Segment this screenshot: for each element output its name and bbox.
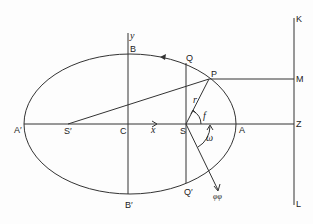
label-phi: φφ bbox=[213, 192, 222, 201]
label-B: B bbox=[130, 44, 136, 54]
angle-f-arrow-icon bbox=[191, 110, 196, 114]
label-f: f bbox=[203, 110, 207, 121]
ellipse-diagram: A′ A B B′ C S S′ P Q Q′ K L M Z x y r f … bbox=[0, 0, 313, 224]
perihelion-direction bbox=[186, 124, 218, 190]
label-r: r bbox=[193, 94, 197, 105]
label-L: L bbox=[296, 199, 301, 209]
label-omega: ω bbox=[206, 132, 213, 143]
label-Q: Q bbox=[186, 53, 193, 63]
label-C: C bbox=[120, 126, 127, 136]
label-S-prime: S′ bbox=[64, 126, 72, 136]
label-M: M bbox=[296, 74, 304, 84]
label-Q-prime: Q′ bbox=[184, 187, 193, 197]
label-A: A bbox=[239, 125, 245, 135]
label-A-prime: A′ bbox=[14, 125, 22, 135]
label-P: P bbox=[211, 69, 217, 79]
label-S: S bbox=[180, 126, 186, 136]
label-Z: Z bbox=[296, 119, 302, 129]
line-SprimeP bbox=[68, 79, 209, 124]
label-x: x bbox=[150, 124, 156, 135]
angle-f-arc bbox=[193, 111, 201, 124]
label-K: K bbox=[296, 14, 302, 24]
label-y: y bbox=[129, 30, 135, 41]
diagram-canvas: A′ A B B′ C S S′ P Q Q′ K L M Z x y r f … bbox=[0, 0, 313, 224]
label-B-prime: B′ bbox=[125, 200, 133, 210]
orbit-direction-arrow-icon bbox=[160, 54, 166, 60]
